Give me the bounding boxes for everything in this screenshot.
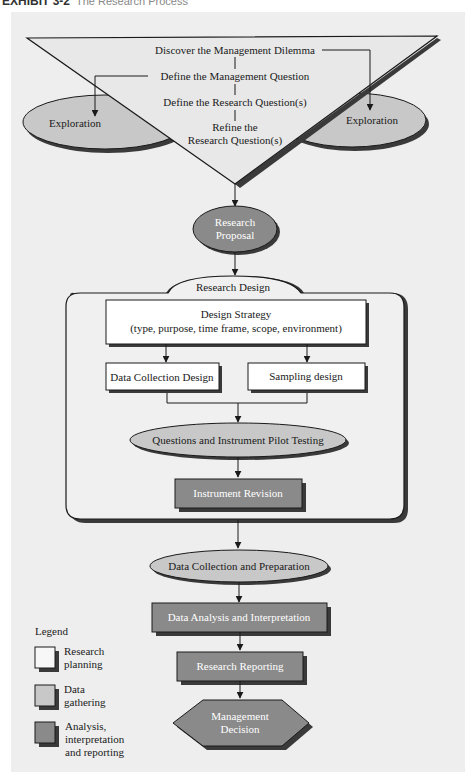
step-define-management-question: Define the Management Question	[161, 70, 310, 82]
pilot-testing-label: Questions and Instrument Pilot Testing	[152, 434, 324, 446]
legend-analysis-line1: Analysis,	[65, 720, 107, 732]
legend-analysis-line3: and reporting	[65, 746, 124, 758]
step-refine-line1: Refine the	[212, 121, 258, 133]
step-refine-line2: Research Question(s)	[188, 134, 283, 147]
research-reporting-label: Research Reporting	[196, 660, 284, 672]
legend: Legend Research planning Data gathering …	[35, 625, 125, 758]
legend-item-analysis: Analysis, interpretation and reporting	[35, 720, 125, 758]
legend-item-data-gathering: Data gathering	[35, 683, 106, 710]
legend-swatch-analysis	[35, 722, 55, 743]
proposal-line1: Research	[215, 216, 256, 228]
research-process-diagram: Exploration Exploration Discover the Man…	[0, 0, 472, 780]
legend-planning-line2: planning	[64, 658, 103, 670]
legend-gathering-line2: gathering	[64, 696, 106, 708]
sampling-design-label: Sampling design	[269, 370, 343, 382]
legend-swatch-planning	[35, 647, 55, 668]
design-strategy-detail: (type, purpose, time frame, scope, envir…	[130, 322, 342, 335]
legend-planning-line1: Research	[64, 645, 105, 657]
decision-line1: Management	[211, 710, 268, 722]
design-strategy-box: Design Strategy (type, purpose, time fra…	[106, 300, 369, 347]
legend-analysis-line2: interpretation	[65, 733, 125, 745]
exploration-right-label: Exploration	[346, 114, 398, 126]
research-reporting-box: Research Reporting	[177, 652, 307, 685]
research-design-container: Research Design Design Strategy (type, p…	[66, 276, 408, 523]
exploration-left-label: Exploration	[49, 117, 101, 129]
research-design-title: Research Design	[196, 281, 271, 293]
step-define-research-question: Define the Research Question(s)	[163, 96, 307, 109]
legend-swatch-gathering	[35, 685, 55, 706]
design-strategy-title: Design Strategy	[201, 308, 272, 320]
data-collection-design-label: Data Collection Design	[110, 371, 214, 383]
data-collection-label: Data Collection and Preparation	[168, 560, 310, 572]
instrument-revision-label: Instrument Revision	[193, 487, 283, 499]
legend-title: Legend	[35, 625, 68, 637]
decision-line2: Decision	[220, 723, 260, 735]
pilot-testing-node: Questions and Instrument Pilot Testing	[130, 423, 349, 460]
proposal-line2: Proposal	[216, 229, 255, 241]
legend-item-research-planning: Research planning	[35, 645, 105, 672]
data-collection-design-box: Data Collection Design	[106, 363, 222, 393]
management-decision-node: Management Decision	[173, 700, 313, 750]
research-proposal-node: Research Proposal	[193, 206, 280, 255]
data-collection-node: Data Collection and Preparation	[150, 550, 331, 585]
instrument-revision-box: Instrument Revision	[175, 479, 306, 512]
sampling-design-box: Sampling design	[248, 363, 368, 393]
legend-gathering-line1: Data	[64, 683, 85, 695]
step-discover-dilemma: Discover the Management Dilemma	[155, 44, 315, 56]
data-analysis-box: Data Analysis and Interpretation	[152, 603, 331, 636]
data-analysis-label: Data Analysis and Interpretation	[168, 611, 311, 623]
